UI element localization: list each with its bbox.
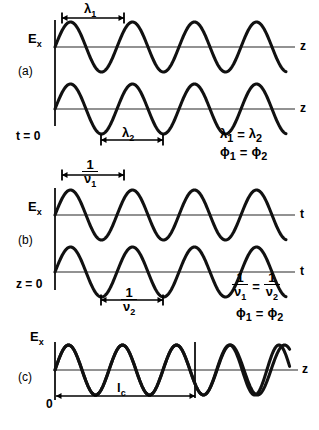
denominator-nu-1: ν1: [82, 171, 98, 189]
panel-c-y-axis-label: Ex: [30, 330, 44, 347]
lambda-2-label: λ2: [122, 126, 134, 143]
annotation-phi-equal: ϕ1 = ϕ2: [220, 144, 267, 162]
panel-a-axis2-end-label: z: [300, 102, 306, 114]
numerator-one: 1: [82, 158, 98, 171]
numerator-one: 1: [121, 286, 137, 299]
denominator-nu-2: ν2: [121, 299, 137, 317]
phi-1-term: ϕ1: [236, 305, 252, 323]
phi-1-term: ϕ1: [220, 144, 236, 162]
period-2-term: 1 ν2: [264, 271, 280, 302]
equals-sign: =: [256, 306, 264, 321]
annotation-period-equal: 1 ν1 = 1 ν2: [232, 271, 280, 302]
panel-b-axis1-end-label: t: [300, 208, 304, 220]
x-subscript: x: [37, 207, 42, 217]
coherence-length-measure-arrow-left: [56, 393, 62, 399]
equals-sign: =: [240, 145, 248, 160]
panel-b-label: (b): [18, 234, 33, 246]
annotation-lambda-equal: λ1 = λ2: [220, 126, 262, 144]
panel-c-origin-label: 0: [46, 398, 53, 410]
phi-2-term: ϕ2: [251, 144, 267, 162]
x-subscript: x: [37, 39, 42, 49]
lambda-2-subscript: 2: [129, 133, 134, 143]
panel-b-condition: z = 0: [16, 278, 42, 290]
panel-a-y-axis-label: Ex: [28, 32, 42, 49]
E-symbol: E: [28, 199, 37, 214]
equals-sign: =: [252, 279, 260, 294]
period-1-term: 1 ν1: [232, 271, 248, 302]
panel-a-condition: t = 0: [16, 130, 40, 142]
E-symbol: E: [30, 329, 39, 344]
period-1-label: 1 ν1: [82, 158, 98, 189]
lambda-1-label: λ1: [84, 2, 96, 19]
x-subscript: x: [39, 337, 44, 347]
coherence-figure: [0, 0, 319, 430]
panel-b-y-axis-label: Ex: [28, 200, 42, 217]
c-subscript: c: [121, 388, 126, 398]
E-symbol: E: [28, 31, 37, 46]
panel-a-axis1-end-label: z: [300, 40, 306, 52]
lambda-1-subscript: 1: [91, 9, 96, 19]
period-2-label: 1 ν2: [121, 286, 137, 317]
panel-b-axis2-end-label: t: [300, 265, 304, 277]
lambda-2-term: λ2: [249, 126, 262, 144]
panel-a-label: (a): [18, 65, 33, 77]
lambda-1-term: λ1: [220, 126, 233, 144]
panel-c-label: (c): [18, 371, 32, 383]
annotation-phi-equal-b: ϕ1 = ϕ2: [236, 305, 283, 323]
panel-c-axis-end-label: z: [302, 363, 308, 375]
phi-2-term: ϕ2: [267, 305, 283, 323]
equals-sign: =: [237, 127, 245, 142]
coherence-length-label: lc: [117, 381, 126, 398]
